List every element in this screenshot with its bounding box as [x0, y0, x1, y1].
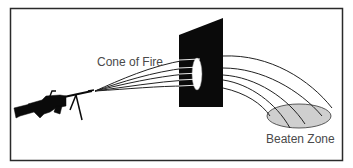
beaten-zone-label: Beaten Zone: [266, 132, 335, 146]
cone-of-fire-label: Cone of Fire: [97, 55, 163, 69]
cone-of-fire-diagram: Cone of Fire Beaten Zone: [0, 0, 353, 168]
